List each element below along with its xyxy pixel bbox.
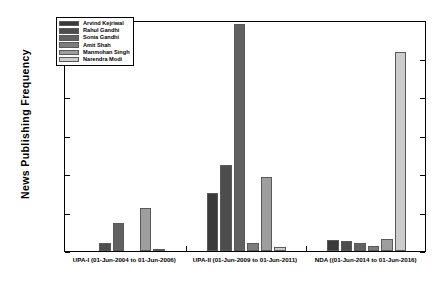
legend-item-label: Sonia Gandhi <box>83 34 119 41</box>
y-axis-tick <box>420 21 425 22</box>
x-axis-tick <box>186 246 187 251</box>
legend-swatch-icon <box>59 50 79 56</box>
y-axis-tick <box>65 252 70 253</box>
legend-swatch-icon <box>59 21 79 27</box>
legend-item: Sonia Gandhi <box>59 34 130 41</box>
legend-item-label: Rahul Gandhi <box>83 27 119 34</box>
x-axis-group-label: NDA ((01-Jun-2014 to 01-Jun-2016) <box>305 256 426 263</box>
bar <box>99 243 111 251</box>
y-axis-tick <box>420 252 425 253</box>
y-axis-tick <box>65 175 70 176</box>
y-axis-tick <box>65 98 70 99</box>
legend-item: Amit Shah <box>59 42 130 49</box>
bar <box>247 243 259 251</box>
bar <box>368 246 380 251</box>
legend-item-label: Manmohan Singh <box>83 49 130 56</box>
y-axis-tick <box>420 98 425 99</box>
bar <box>140 208 152 251</box>
chart-legend: Arvind KejriwalRahul GandhiSonia GandhiA… <box>56 17 134 66</box>
x-axis-tick <box>306 246 307 251</box>
y-axis-tick <box>65 214 70 215</box>
bar-chart-figure: News Publishing Frequency 01002003004005… <box>0 0 443 284</box>
legend-item: Arvind Kejriwal <box>59 20 130 27</box>
bar <box>274 247 286 251</box>
bar <box>327 240 339 251</box>
y-axis-tick <box>420 214 425 215</box>
y-axis-tick <box>420 60 425 61</box>
legend-swatch-icon <box>59 35 79 41</box>
legend-swatch-icon <box>59 28 79 34</box>
bar <box>113 223 125 251</box>
bar <box>354 243 366 251</box>
y-axis-tick <box>420 175 425 176</box>
legend-item: Manmohan Singh <box>59 49 130 56</box>
bar <box>395 52 407 251</box>
bar <box>381 239 393 251</box>
y-axis-title: News Publishing Frequency <box>19 24 31 224</box>
bar <box>220 165 232 251</box>
legend-item-label: Narendra Modi <box>83 56 122 63</box>
legend-item: Rahul Gandhi <box>59 27 130 34</box>
y-axis-tick <box>420 137 425 138</box>
legend-swatch-icon <box>59 42 79 48</box>
legend-swatch-icon <box>59 57 79 63</box>
bar <box>341 241 353 251</box>
x-axis-group-label: UPA-II (01-Jun-2009 to 01-Jun-2011) <box>185 256 306 263</box>
y-axis-tick <box>65 137 70 138</box>
legend-item-label: Amit Shah <box>83 42 111 49</box>
bar <box>234 24 246 251</box>
bar <box>153 249 165 251</box>
legend-item: Narendra Modi <box>59 56 130 63</box>
legend-item-label: Arvind Kejriwal <box>83 20 124 27</box>
bar <box>207 193 219 251</box>
x-axis-group-label: UPA-I (01-Jun-2004 to 01-Jun-2006) <box>64 256 185 263</box>
bar <box>261 177 273 251</box>
